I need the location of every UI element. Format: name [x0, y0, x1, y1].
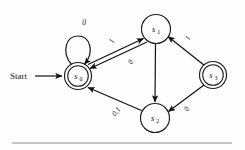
state-node-s2[interactable]: s 2 — [141, 104, 170, 133]
transition-label-s2-s0: 0,1 — [110, 105, 123, 118]
state-s3-subscript: 3 — [214, 75, 217, 81]
transition-s1-s0-line — [90, 42, 147, 69]
state-node-s0[interactable]: s 0 — [65, 63, 92, 90]
transition-s1-s2-line — [155, 44, 156, 103]
transition-s1-s2 — [155, 44, 156, 103]
state-s0-subscript: 0 — [79, 76, 82, 82]
transition-s0-self — [66, 36, 90, 65]
transition-s3-s1 — [168, 37, 205, 66]
transition-label-s0-s1: 1 — [107, 37, 117, 45]
transition-label-s3-s1: 1 — [183, 34, 193, 42]
transition-label-s1-s0: 0 — [126, 58, 136, 66]
state-s1-subscript: 1 — [157, 29, 160, 35]
state-s1-outer-circle — [142, 15, 171, 44]
start-label: Start — [10, 71, 27, 81]
state-s2-outer-circle — [141, 104, 170, 133]
state-s3-outer-circle — [200, 62, 227, 89]
transition-label-s0-self: 0 — [82, 18, 86, 27]
transition-s0-self-path — [66, 36, 90, 65]
transition-s1-s0 — [90, 42, 147, 69]
transition-s3-s1-line — [168, 37, 205, 66]
state-s0-outer-circle — [65, 63, 92, 90]
fsm-diagram-canvas: s 0 s 1 s 2 s 3 0 1 0 0,1 1 0 St — [0, 0, 245, 150]
state-node-s3[interactable]: s 3 — [200, 62, 227, 89]
fsm-figure: s 0 s 1 s 2 s 3 0 1 0 0,1 1 0 St — [0, 0, 245, 150]
transition-label-s3-s2: 0 — [182, 105, 192, 113]
state-s2-subscript: 2 — [156, 118, 159, 124]
state-node-s1[interactable]: s 1 — [142, 15, 171, 44]
